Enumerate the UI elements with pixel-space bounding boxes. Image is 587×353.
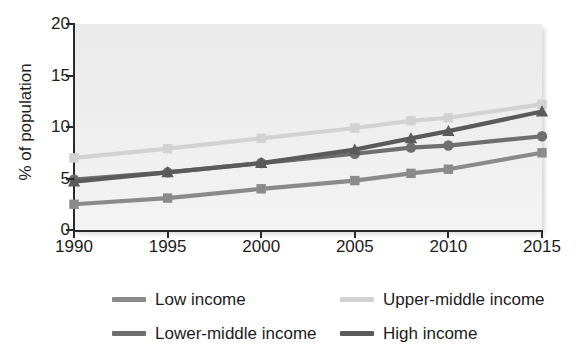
x-axis-tick-label: 2000 xyxy=(231,238,291,255)
plot-area-background xyxy=(74,24,542,230)
legend-swatch-icon xyxy=(112,297,146,302)
legend-item[interactable]: Low income xyxy=(112,291,340,308)
y-axis-tick xyxy=(66,75,74,77)
legend-label: Low income xyxy=(155,291,246,308)
y-axis-tick xyxy=(66,126,74,128)
legend-label: Lower-middle income xyxy=(155,325,317,342)
y-axis-tick-label: 10 xyxy=(32,118,70,135)
y-axis-tick-label: 0 xyxy=(32,221,70,238)
x-axis-tick-label: 1990 xyxy=(44,238,104,255)
legend-label: High income xyxy=(383,325,478,342)
x-axis-tick-label: 1995 xyxy=(138,238,198,255)
legend-item[interactable]: Lower-middle income xyxy=(112,325,340,342)
x-axis-tick-label: 2015 xyxy=(512,238,572,255)
legend-item[interactable]: High income xyxy=(340,325,542,342)
x-axis-tick-label: 2005 xyxy=(325,238,385,255)
legend-label: Upper-middle income xyxy=(383,291,545,308)
chart-legend: Low incomeUpper-middle incomeLower-middl… xyxy=(112,282,542,350)
x-axis-line xyxy=(73,230,543,232)
y-axis-title: % of population xyxy=(16,32,36,212)
y-axis-tick xyxy=(66,178,74,180)
legend-swatch-icon xyxy=(340,297,374,302)
legend-swatch-icon xyxy=(112,331,146,336)
y-axis-tick-label: 15 xyxy=(32,67,70,84)
y-axis-tick-label: 20 xyxy=(32,15,70,32)
x-axis-tick-label: 2010 xyxy=(418,238,478,255)
legend-swatch-icon xyxy=(340,331,374,336)
y-axis-tick xyxy=(66,23,74,25)
line-chart: 05101520 % of population Low incomeUpper… xyxy=(0,0,587,353)
y-axis-tick-label: 5 xyxy=(32,170,70,187)
legend-item[interactable]: Upper-middle income xyxy=(340,291,542,308)
